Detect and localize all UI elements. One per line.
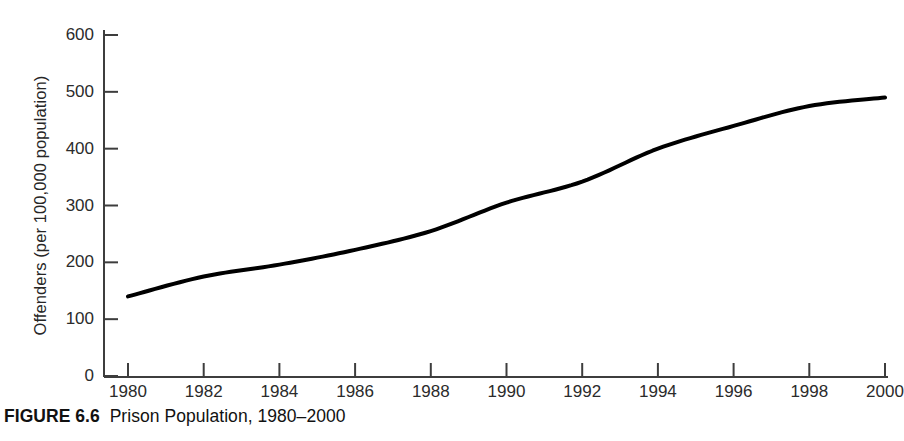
figure-caption: FIGURE 6.6 Prison Population, 1980–2000 <box>4 406 346 427</box>
x-axis-ticks <box>128 363 885 377</box>
figure-caption-text: Prison Population, 1980–2000 <box>110 406 346 426</box>
figure-caption-number: FIGURE 6.6 <box>4 406 100 426</box>
y-axis-title: Offenders (per 100,000 population) <box>31 16 50 396</box>
data-series-line <box>128 98 885 297</box>
line-chart-svg <box>0 0 889 400</box>
chart-plot-area: 0100200300400500600 19801982198419861988… <box>0 0 889 400</box>
y-axis-ticks <box>104 35 118 376</box>
